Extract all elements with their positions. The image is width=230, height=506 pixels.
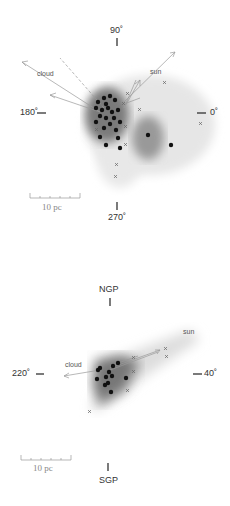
label-180: 180˚	[20, 107, 38, 117]
scale-bar	[21, 455, 71, 460]
label-0: 0˚	[210, 107, 218, 117]
sun-label: sun	[183, 328, 194, 335]
cloud-label: cloud	[37, 70, 54, 77]
scale-bar	[30, 193, 80, 198]
scale-label: 10 pc	[42, 202, 62, 212]
label-ngp: NGP	[99, 284, 119, 294]
label-270: 270˚	[108, 212, 126, 222]
label-90: 90˚	[110, 25, 123, 35]
scale-label: 10 pc	[33, 463, 53, 473]
label-40: 40˚	[204, 368, 217, 378]
sun-label: sun	[150, 68, 161, 75]
label-220: 220˚	[12, 368, 30, 378]
cloud-label: cloud	[65, 361, 82, 368]
bottom-panel: NGP 220˚ 40˚ SGP cloud sun 10 pc	[0, 260, 230, 506]
cluster-region	[85, 87, 129, 143]
label-sgp: SGP	[99, 475, 118, 485]
secondary-region	[132, 116, 164, 160]
top-panel: 90˚ 180˚ 0˚ 270˚ cloud sun 10 pc	[0, 0, 230, 260]
